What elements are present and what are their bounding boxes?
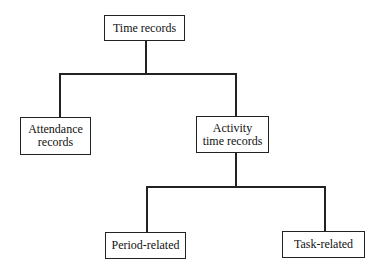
node-label-line2: records xyxy=(38,136,73,149)
node-period-related: Period-related xyxy=(105,232,186,259)
node-label: Period-related xyxy=(112,239,180,252)
node-label: Time records xyxy=(113,22,176,35)
connector-root-down xyxy=(145,40,147,73)
node-task-related: Task-related xyxy=(282,231,365,258)
node-label: Task-related xyxy=(294,238,353,251)
connector-to-activity xyxy=(235,73,237,116)
node-activity-time-records: Activity time records xyxy=(196,116,269,153)
connector-to-task xyxy=(324,186,326,231)
node-attendance-records: Attendance records xyxy=(20,117,91,155)
connector-level1-horizontal xyxy=(59,73,236,75)
node-label-line2: time records xyxy=(203,135,263,148)
node-time-records: Time records xyxy=(104,15,185,41)
connector-to-attendance xyxy=(59,73,61,117)
connector-level2-horizontal xyxy=(146,186,325,188)
connector-to-period xyxy=(146,186,148,232)
node-label-line1: Activity xyxy=(213,122,252,135)
connector-activity-down xyxy=(235,152,237,186)
